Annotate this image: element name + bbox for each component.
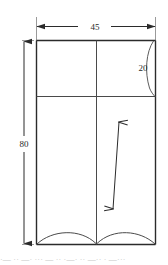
height-dimension-group: 80 [20,42,30,244]
width-dimension-group: 45 [37,22,155,32]
corner-arc-group: 20 [139,41,156,97]
bottom-arc-left [37,233,96,244]
drawing-svg: 45 80 20 [0,0,168,265]
width-dimension-label: 45 [91,22,101,32]
corner-arc-label: 20 [139,63,149,73]
footer-caption-fragment: ·— ·· —· ··· — ·· ·—· ·· —·· · —··· [0,254,168,265]
extension-lines [22,17,156,245]
direction-arrow-group [113,122,119,209]
technical-drawing-canvas: 45 80 20 [0,0,168,265]
corner-arc-curve [147,41,155,97]
vertical-direction-arrow [113,122,119,209]
height-dimension-label: 80 [20,139,30,149]
bottom-arc-right [97,233,155,244]
